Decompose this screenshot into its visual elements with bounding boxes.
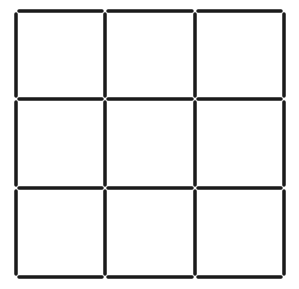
matchstick-grid-diagram (0, 0, 299, 289)
grid-canvas (0, 0, 299, 289)
